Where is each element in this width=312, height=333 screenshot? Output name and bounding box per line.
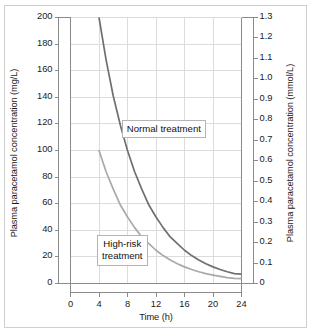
paracetamol-treatment-chart: 020406080100120140160180200 00.10.20.30.… xyxy=(0,0,312,333)
y-right-tick-label: 1.0 xyxy=(260,72,288,82)
y-right-tick-label: 1.1 xyxy=(260,52,288,62)
x-tick-label: 16 xyxy=(171,299,199,309)
y-left-tick-label: 100 xyxy=(17,144,53,154)
y-axis-right-title: Plasma paracetamol concentration (mmol/L… xyxy=(285,53,295,253)
x-tick-label: 4 xyxy=(85,299,113,309)
y-left-tick-label: 200 xyxy=(17,11,53,21)
y-right-tick-label: 1.2 xyxy=(260,31,288,41)
x-tick-label: 0 xyxy=(57,299,85,309)
annotation-label-1: Normal treatment xyxy=(122,120,206,139)
y-left-tick-label: 0 xyxy=(17,277,53,287)
y-right-tick-label: 0.6 xyxy=(260,154,288,164)
y-left-tick-label: 180 xyxy=(17,38,53,48)
y-axis-left-title: Plasma paracetamol concentration (mg/L) xyxy=(9,53,19,253)
y-left-tick-label: 80 xyxy=(17,171,53,181)
annotation-label-2: High-risk treatment xyxy=(97,235,148,265)
y-right-tick-label: 0.5 xyxy=(260,175,288,185)
y-left-tick-label: 160 xyxy=(17,64,53,74)
y-right-tick-label: 0.1 xyxy=(260,257,288,267)
x-tick-label: 20 xyxy=(199,299,227,309)
y-left-tick-label: 20 xyxy=(17,250,53,260)
y-left-tick-label: 140 xyxy=(17,91,53,101)
y-left-tick-label: 40 xyxy=(17,224,53,234)
y-right-tick-label: 0 xyxy=(260,277,288,287)
y-left-tick-label: 60 xyxy=(17,197,53,207)
y-right-tick-label: 0.8 xyxy=(260,113,288,123)
y-right-tick-label: 0.4 xyxy=(260,195,288,205)
y-right-tick-label: 1.3 xyxy=(260,11,288,21)
y-right-tick-label: 0.9 xyxy=(260,93,288,103)
y-right-tick-label: 0.2 xyxy=(260,236,288,246)
x-tick-label: 24 xyxy=(228,299,256,309)
x-tick-label: 8 xyxy=(114,299,142,309)
y-left-tick-label: 120 xyxy=(17,117,53,127)
x-axis-title: Time (h) xyxy=(0,312,312,322)
x-tick-label: 12 xyxy=(142,299,170,309)
y-right-tick-label: 0.3 xyxy=(260,216,288,226)
y-right-tick-label: 0.7 xyxy=(260,134,288,144)
